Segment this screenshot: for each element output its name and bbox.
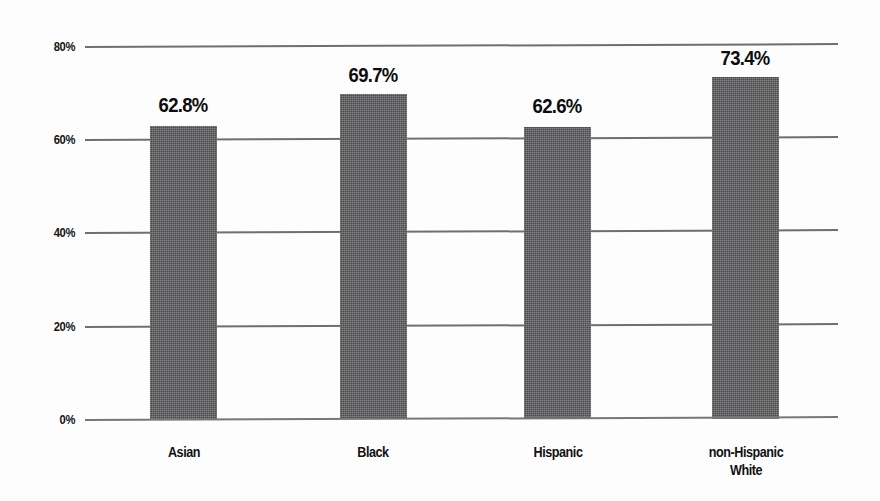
- plot-area: 62.8% 69.7% 62.6% 73.4%: [85, 46, 838, 419]
- x-axis-label-non-hispanic-white-line1: non-Hispanic: [709, 444, 783, 460]
- x-axis-label-non-hispanic-white-line2: White: [670, 461, 823, 479]
- bar-black[interactable]: [340, 94, 407, 419]
- x-axis-label-black-line1: Black: [357, 444, 388, 460]
- x-axis-label-non-hispanic-white: non-Hispanic White: [670, 443, 823, 480]
- bar-value-black: 69.7%: [320, 64, 426, 85]
- x-axis-label-asian: Asian: [108, 443, 261, 461]
- x-axis-label-hispanic: Hispanic: [482, 443, 635, 461]
- y-axis-tick-60: 60%: [23, 133, 75, 146]
- x-axis-label-black: Black: [297, 443, 450, 461]
- y-axis-tick-0: 0%: [23, 413, 75, 426]
- bar-value-asian: 62.8%: [130, 94, 236, 115]
- y-axis-tick-40: 40%: [23, 226, 75, 239]
- bar-asian[interactable]: [150, 126, 217, 419]
- bar-non-hispanic-white[interactable]: [712, 77, 779, 419]
- x-axis-label-hispanic-line1: Hispanic: [534, 444, 583, 460]
- bar-value-non-hispanic-white: 73.4%: [692, 47, 798, 68]
- bar-chart: 80% 60% 40% 20% 0% 62.8% 69.7% 62.6% 73.…: [0, 0, 880, 501]
- bar-value-hispanic: 62.6%: [504, 95, 610, 116]
- bar-hispanic[interactable]: [524, 127, 591, 419]
- y-axis-tick-80: 80%: [23, 40, 75, 53]
- y-axis-tick-20: 20%: [23, 320, 75, 333]
- x-axis-label-asian-line1: Asian: [168, 444, 200, 460]
